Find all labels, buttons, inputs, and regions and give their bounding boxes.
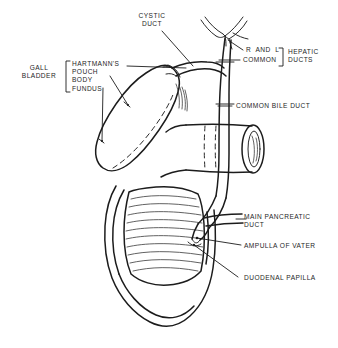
label-duodenal-papilla: DUODENAL PAPILLA bbox=[244, 274, 336, 282]
label-common: COMMON bbox=[243, 56, 287, 64]
anatomical-figure: GALL BLADDER HARTMANN'S POUCH BODY FUNDU… bbox=[0, 0, 338, 348]
common-bile-duct bbox=[216, 38, 234, 198]
label-gall-bladder: GALL BLADDER bbox=[14, 64, 64, 81]
label-hartmanns-pouch: HARTMANN'S POUCH bbox=[72, 60, 134, 77]
duodenum bbox=[105, 186, 216, 326]
label-body: BODY bbox=[72, 76, 112, 84]
label-fundus: FUNDUS bbox=[72, 85, 120, 93]
duodenum-cut-end bbox=[161, 124, 264, 177]
label-r-and-l: R AND L bbox=[246, 46, 288, 54]
label-cystic-duct: CYSTIC DUCT bbox=[129, 12, 175, 29]
label-hepatic-ducts: HEPATIC DUCTS bbox=[288, 48, 336, 65]
label-ampulla-of-vater: AMPULLA OF VATER bbox=[244, 242, 336, 250]
main-pancreatic-duct bbox=[192, 196, 243, 240]
label-common-bile-duct: COMMON BILE DUCT bbox=[236, 102, 336, 110]
label-main-pancreatic-duct: MAIN PANCREATIC DUCT bbox=[244, 213, 336, 230]
gallbladder-parts-bracket bbox=[66, 61, 70, 92]
